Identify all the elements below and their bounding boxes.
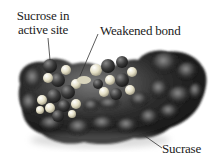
label-sucrase: Sucrase <box>162 142 201 156</box>
label-sucrose-in-active-site: Sucrose in active site <box>13 9 73 37</box>
label-weakened-bond: Weakened bond <box>100 24 180 38</box>
label-sucrose-line1: Sucrose in <box>13 9 73 23</box>
label-sucrose-line2: active site <box>13 23 73 37</box>
weakened-bond-site <box>77 76 91 84</box>
sucrose-leader-line <box>48 38 50 60</box>
